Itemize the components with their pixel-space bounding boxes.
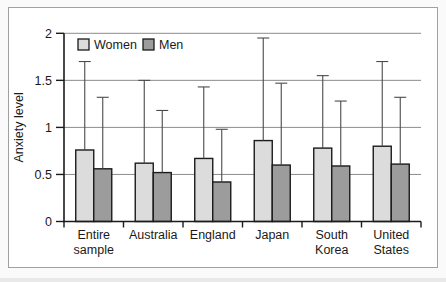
category-label-united-states-line2: States (374, 243, 409, 257)
bar-men-england (213, 182, 231, 222)
category-label-england: England (190, 228, 236, 242)
y-tick-label-2: 2 (45, 27, 52, 41)
y-tick-label-1: 1 (45, 121, 52, 135)
y-tick-label-1.5: 1.5 (35, 74, 52, 88)
bar-women-united-states (373, 146, 391, 221)
y-tick-label-0.5: 0.5 (35, 168, 52, 182)
bar-women-japan (254, 141, 272, 222)
y-axis-title: Anxiety level (12, 92, 26, 162)
category-label-south-korea-line2: Korea (315, 243, 348, 257)
y-tick-label-0: 0 (45, 215, 52, 229)
bar-men-japan (272, 165, 290, 221)
bar-women-england (195, 158, 213, 221)
category-label-united-states-line1: United (373, 228, 409, 242)
bar-women-australia (135, 163, 153, 221)
legend-swatch-women (78, 39, 89, 50)
legend-label-women: Women (94, 38, 137, 52)
category-label-australia: Australia (129, 228, 178, 242)
page-edge-shadow (0, 278, 446, 282)
figure-frame: 00.511.52EntiresampleAustraliaEnglandJap… (8, 7, 438, 268)
bar-men-united-states (391, 164, 409, 221)
category-label-entire-sample-line1: Entire (77, 228, 110, 242)
bar-men-australia (153, 173, 171, 222)
category-label-japan: Japan (255, 228, 289, 242)
category-label-entire-sample-line2: sample (74, 243, 114, 257)
legend-swatch-men (143, 39, 154, 50)
bar-women-entire-sample (76, 150, 94, 222)
bar-men-south-korea (332, 166, 350, 222)
anxiety-chart: 00.511.52EntiresampleAustraliaEnglandJap… (9, 8, 436, 266)
category-label-south-korea-line1: South (315, 228, 348, 242)
bar-women-south-korea (314, 148, 332, 221)
bar-men-entire-sample (94, 169, 112, 222)
legend-label-men: Men (159, 38, 183, 52)
